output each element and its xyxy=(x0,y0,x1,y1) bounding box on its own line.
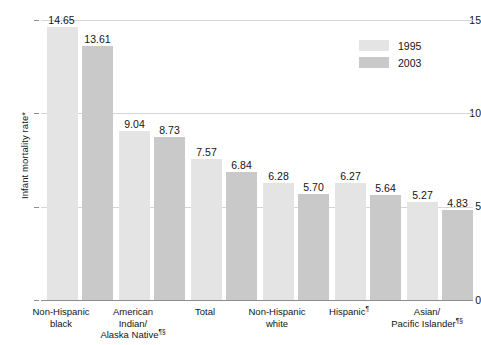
bar-1995-american-indian-alaska-native xyxy=(119,131,150,300)
category-line: Indian/ xyxy=(119,318,148,329)
legend-label-1995: 1995 xyxy=(398,40,421,52)
bar-1995-total xyxy=(191,159,222,300)
y-tick-mark-10 xyxy=(34,113,39,114)
category-line: white xyxy=(266,318,288,329)
bar-2003-american-indian-alaska-native xyxy=(154,137,185,300)
legend-item-2003: 2003 xyxy=(359,54,421,71)
legend-item-1995: 1995 xyxy=(359,37,421,54)
legend-label-2003: 2003 xyxy=(398,57,421,69)
legend-swatch-2003 xyxy=(359,57,389,68)
y-tick-mark-0 xyxy=(34,300,39,301)
bar-1995-non-hispanic-black xyxy=(47,27,78,301)
bar-1995-hispanic xyxy=(335,183,366,300)
category-line: Hispanic xyxy=(329,306,365,317)
value-label-2003-non-hispanic-white: 5.70 xyxy=(290,181,337,193)
bar-1995-asian-pacific-islander xyxy=(407,202,438,300)
category-line: Alaska Native xyxy=(100,329,158,340)
value-label-2003-non-hispanic-black: 13.61 xyxy=(74,33,121,45)
value-label-1995-non-hispanic-black: 14.65 xyxy=(37,14,86,26)
y-tick-mark-5 xyxy=(34,207,39,208)
category-line: Asian/ xyxy=(414,306,440,317)
value-label-2003-asian-pacific-islander: 4.83 xyxy=(434,197,481,209)
legend-swatch-1995 xyxy=(359,40,389,51)
category-label-asian-pacific-islander: Asian/ Pacific Islander¶§ xyxy=(379,306,475,329)
category-line: black xyxy=(50,318,72,329)
category-line: Pacific Islander xyxy=(391,318,455,329)
category-line: Non-Hispanic xyxy=(32,306,89,317)
bar-2003-non-hispanic-white xyxy=(298,194,329,300)
value-label-2003-american-indian-alaska-native: 8.73 xyxy=(146,124,193,136)
category-line: Non-Hispanic xyxy=(248,306,305,317)
infant-mortality-bar-chart: Infant mortality rate* 15 10 5 0 14.65 xyxy=(0,0,481,345)
category-footnote: ¶§ xyxy=(456,316,463,323)
gridline-15 xyxy=(41,20,473,21)
category-line: Total xyxy=(195,306,215,317)
bar-2003-hispanic xyxy=(370,195,401,300)
value-label-2003-total: 6.84 xyxy=(218,159,265,171)
bar-2003-asian-pacific-islander xyxy=(442,210,473,300)
axis-baseline xyxy=(41,300,473,301)
y-axis-title: Infant mortality rate* xyxy=(19,56,30,256)
value-label-1995-total: 7.57 xyxy=(183,146,230,158)
category-footnote: ¶§ xyxy=(158,328,165,335)
category-footnote: ¶ xyxy=(365,305,369,312)
bar-2003-non-hispanic-black xyxy=(82,46,113,300)
category-line: American xyxy=(113,306,153,317)
bar-1995-non-hispanic-white xyxy=(263,183,294,300)
legend: 1995 2003 xyxy=(359,37,421,71)
value-label-2003-hispanic: 5.64 xyxy=(362,182,409,194)
bar-2003-total xyxy=(226,172,257,300)
